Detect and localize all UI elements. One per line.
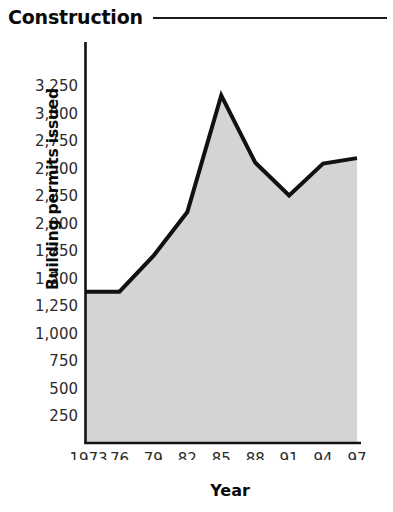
header-rule-divider (153, 17, 387, 19)
x-axis-tick-labels: 19737679828588919497 (69, 450, 366, 460)
x-tick-label: 76 (110, 450, 129, 460)
x-tick-label: 85 (212, 450, 231, 460)
x-tick-label: 88 (246, 450, 265, 460)
x-tick-label: 1973 (69, 450, 107, 460)
x-tick-label: 82 (178, 450, 197, 460)
figure-header: Construction (8, 2, 393, 32)
area-fill-region (86, 95, 358, 443)
y-tick-label: 1,000 (35, 325, 78, 343)
x-axis-title: Year (85, 481, 375, 500)
x-tick-label: 97 (347, 450, 366, 460)
page-title: Construction (8, 6, 143, 28)
y-tick-label: 250 (49, 407, 78, 425)
y-axis-title: Building permits issued (44, 74, 62, 304)
y-tick-label: 500 (49, 380, 78, 398)
y-tick-label: 750 (49, 352, 78, 370)
x-tick-label: 94 (314, 450, 333, 460)
plot-area: 2505007501,0001,2501,5001,7502,0002,2502… (0, 30, 393, 460)
x-tick-label: 79 (144, 450, 163, 460)
chart-figure: Construction 2505007501,0001,2501,5001,7… (0, 0, 393, 512)
x-tick-label: 91 (280, 450, 299, 460)
